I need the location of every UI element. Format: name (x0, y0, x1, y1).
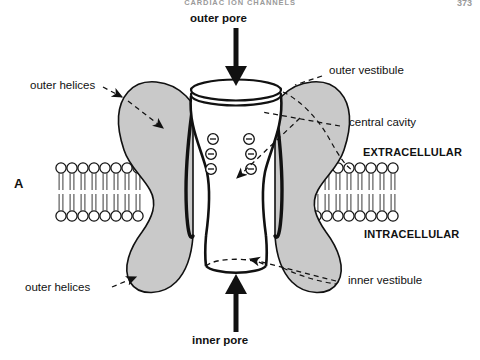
negative-charge-icon (244, 134, 255, 145)
panel-letter: A (14, 176, 23, 191)
inner-vestibule-mouth (205, 236, 267, 273)
outer-pore-arrow (225, 28, 247, 86)
lipid-leaflet-outer-left (56, 163, 143, 190)
charge-column-right (244, 134, 257, 175)
label-central-cavity: central cavity (349, 116, 416, 128)
negative-charge-icon (208, 134, 219, 145)
negative-charge-icon (206, 164, 217, 175)
pore-lumen (191, 96, 282, 236)
charge-column-left (206, 134, 219, 175)
label-outer-pore: outer pore (190, 12, 247, 24)
label-extracellular: EXTRACELLULAR (363, 146, 462, 158)
negative-charge-icon (206, 149, 217, 160)
label-inner-pore: inner pore (192, 334, 248, 346)
channel-subunit-right (275, 82, 350, 293)
label-inner-vestibule: inner vestibule (348, 274, 422, 286)
label-outer-helices-bottom: outer helices (25, 281, 90, 293)
ion-channel-figure: CARDIAC ION CHANNELS 373 (0, 0, 480, 360)
channel-subunit-left (119, 82, 194, 293)
negative-charge-icon (246, 149, 257, 160)
figure-canvas (0, 0, 480, 360)
leader-outer-helices-top (103, 87, 122, 97)
label-outer-vestibule: outer vestibule (329, 64, 404, 76)
lipid-leaflet-inner-left (56, 194, 143, 221)
lipid-bilayer-left (56, 163, 143, 221)
label-intracellular: INTRACELLULAR (364, 228, 459, 240)
inner-pore-arrow (225, 274, 247, 332)
label-outer-helices-top: outer helices (30, 79, 95, 91)
